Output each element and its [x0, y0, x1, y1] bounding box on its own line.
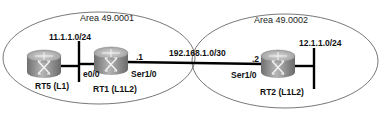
serial-link	[127, 62, 264, 64]
lan2-network-label: 12.1.1.0/24	[299, 39, 342, 48]
serial-network-label: 192.168.1.0/30	[169, 49, 226, 58]
router-rt1-label: RT1 (L1L2)	[93, 85, 137, 94]
rt1-serial-host-label: .1	[136, 53, 143, 62]
router-rt5-icon[interactable]	[27, 50, 61, 78]
area-1-label: Area 49.0001	[80, 14, 134, 23]
area-2-label: Area 49.0002	[254, 16, 308, 25]
router-rt2-label: RT2 (L1L2)	[260, 88, 304, 97]
lan1-network-label: 11.1.1.0/24	[49, 33, 91, 42]
rt2-serial-interface-label: Ser1/0	[231, 71, 257, 80]
router-rt5-label: RT5 (L1)	[35, 82, 69, 91]
router-rt2-icon[interactable]	[261, 50, 295, 78]
rt1-e0-interface-label: e0/0	[83, 70, 100, 79]
rt1-serial-interface-label: Ser1/0	[131, 70, 157, 79]
rt2-serial-host-label: .2	[252, 55, 259, 64]
